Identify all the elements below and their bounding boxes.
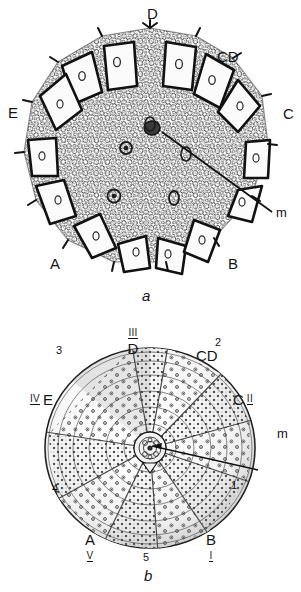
- fig-b-roman-II: II: [247, 394, 253, 405]
- fig-b-roman-III: III: [128, 328, 137, 339]
- fig-b-num-1: 1: [231, 480, 237, 491]
- fig-b-label-B: B: [206, 532, 216, 547]
- fig-a-label-C: C: [283, 106, 294, 121]
- fig-b-label-A: A: [85, 532, 95, 547]
- fig-b-lower-right-group: B I: [200, 532, 222, 562]
- illustration-plate: D CD C B A E m a: [0, 0, 301, 592]
- fig-a-label-A: A: [50, 256, 60, 271]
- fig-b-num-3: 3: [56, 345, 62, 356]
- fig-b-label-E: E: [43, 392, 53, 407]
- fig-b-roman-I: I: [209, 551, 212, 562]
- fig-b-right-group: C II: [233, 392, 253, 407]
- fig-b-roman-V: V: [87, 551, 94, 562]
- fig-b-label-D: D: [128, 341, 139, 356]
- fig-a-label-CD: CD: [217, 49, 239, 64]
- fig-b-label-CD: CD: [196, 348, 218, 363]
- fig-b-label-C: C: [233, 392, 244, 407]
- fig-a-label-m: m: [276, 206, 287, 219]
- fig-a-caption: a: [142, 288, 150, 303]
- fig-b-roman-IV: IV: [30, 394, 40, 405]
- fig-b-num-5: 5: [143, 552, 149, 563]
- fig-a-label-E: E: [8, 105, 18, 120]
- fig-b-caption: b: [144, 568, 152, 583]
- fig-b-num-4: 4: [52, 483, 58, 494]
- figure-b-artwork: [0, 330, 301, 560]
- fig-b-lower-left-group: A V: [79, 532, 101, 562]
- fig-a-label-D: D: [147, 6, 158, 21]
- fig-a-label-B: B: [228, 256, 238, 271]
- fig-b-label-top-group: III D: [120, 328, 146, 354]
- figure-a-artwork: [0, 0, 301, 300]
- fig-b-label-m: m: [277, 427, 288, 440]
- fig-b-left-group: IV E: [30, 392, 53, 407]
